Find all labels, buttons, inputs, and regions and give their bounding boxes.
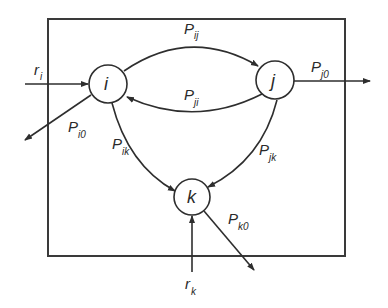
- svg-text:P: P: [259, 141, 269, 158]
- label-pik: P ik: [112, 135, 130, 157]
- svg-text:jk: jk: [267, 152, 277, 163]
- svg-text:ji: ji: [192, 97, 199, 108]
- svg-text:i: i: [40, 71, 43, 82]
- svg-text:P: P: [228, 210, 238, 227]
- svg-text:P: P: [68, 118, 78, 135]
- label-pk0: P k0: [228, 210, 249, 232]
- svg-text:i0: i0: [78, 129, 86, 140]
- label-rk: r k: [185, 275, 197, 297]
- node-j: j: [256, 61, 294, 99]
- svg-text:k: k: [191, 286, 197, 297]
- label-pij: P ij: [184, 20, 199, 41]
- svg-text:ij: ij: [194, 30, 199, 41]
- label-pi0: P i0: [68, 118, 86, 140]
- label-ri: r i: [34, 61, 43, 82]
- system-boundary: [48, 19, 345, 256]
- node-k-label: k: [187, 187, 197, 207]
- node-k: k: [174, 179, 210, 215]
- edge-i-to-j: [124, 47, 258, 71]
- svg-text:P: P: [112, 135, 122, 152]
- svg-text:P: P: [184, 86, 194, 103]
- svg-text:P: P: [184, 20, 194, 37]
- label-pjk: P jk: [259, 141, 277, 163]
- svg-text:k0: k0: [238, 221, 249, 232]
- svg-text:j0: j0: [319, 69, 329, 80]
- label-pj0: P j0: [311, 58, 329, 80]
- node-i: i: [89, 65, 127, 103]
- label-pji: P ji: [184, 86, 199, 108]
- svg-text:P: P: [311, 58, 321, 75]
- network-diagram: i j k P ij P ji P ik P jk P i0 P j0 P k0…: [0, 0, 388, 308]
- svg-text:ik: ik: [122, 146, 130, 157]
